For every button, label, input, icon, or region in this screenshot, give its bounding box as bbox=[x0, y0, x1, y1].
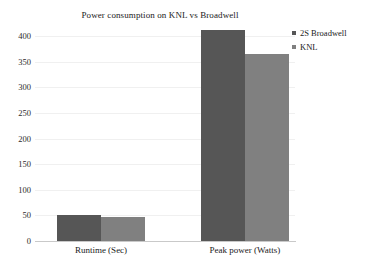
bar-2s-broadwell-peak-power-watts- bbox=[201, 30, 245, 241]
x-tick-label: Runtime (Sec) bbox=[31, 245, 171, 255]
legend-item-label: KNL bbox=[300, 42, 317, 52]
plot-area bbox=[35, 36, 295, 241]
y-tick-label: 0 bbox=[1, 236, 31, 246]
y-tick-label: 250 bbox=[1, 108, 31, 118]
y-tick-label: 100 bbox=[1, 185, 31, 195]
bar-knl-runtime-sec- bbox=[101, 217, 145, 241]
x-tick-label: Peak power (Watts) bbox=[175, 245, 315, 255]
legend-item[interactable]: KNL bbox=[292, 41, 378, 53]
y-tick-label: 400 bbox=[1, 31, 31, 41]
square-marker-icon bbox=[292, 31, 296, 35]
bar-knl-peak-power-watts- bbox=[245, 54, 289, 241]
y-tick-label: 300 bbox=[1, 82, 31, 92]
legend-item[interactable]: 2S Broadwell bbox=[292, 27, 378, 39]
gridline bbox=[35, 36, 295, 37]
legend-item-label: 2S Broadwell bbox=[300, 28, 347, 38]
y-tick-label: 350 bbox=[1, 57, 31, 67]
y-tick-label: 50 bbox=[1, 210, 31, 220]
chart-title: Power consumption on KNL vs Broadwell bbox=[0, 10, 320, 20]
chart-legend: 2S BroadwellKNL bbox=[292, 27, 378, 55]
square-marker-icon bbox=[292, 45, 296, 49]
chart-container: Power consumption on KNL vs Broadwell 05… bbox=[0, 0, 380, 270]
y-tick-label: 200 bbox=[1, 134, 31, 144]
y-tick-label: 150 bbox=[1, 159, 31, 169]
y-axis: 050100150200250300350400 bbox=[0, 0, 31, 270]
x-axis-line bbox=[35, 241, 296, 242]
bar-2s-broadwell-runtime-sec- bbox=[57, 215, 101, 241]
